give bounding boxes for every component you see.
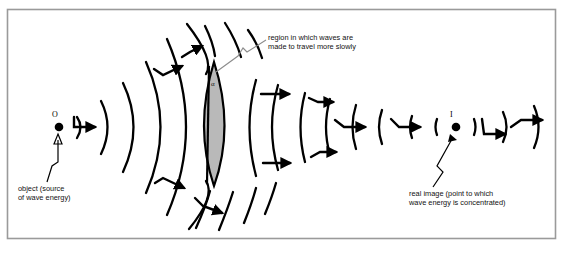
wavefront-post-2 — [503, 112, 507, 142]
fragment-bottom-2 — [219, 192, 233, 230]
wavefront-out-6 — [379, 110, 382, 144]
wavefront-post-3 — [534, 106, 539, 148]
image-point — [452, 123, 461, 132]
region-annotation-label: region in which waves are made to travel… — [268, 33, 356, 51]
image-point-letter: I — [450, 110, 453, 119]
wavefront-out-3 — [301, 93, 306, 162]
leader-image-arrowhead-icon — [448, 134, 457, 142]
arrow-out-far — [391, 119, 420, 127]
leader-image-label — [433, 139, 452, 187]
fragment-bottom-1 — [196, 191, 210, 228]
wavefront-in-3 — [123, 83, 134, 172]
wavefront-fragments-top — [205, 23, 262, 58]
wavefront-in-2 — [101, 101, 108, 154]
real-image-annotation-label: real image (point to which wave energy i… — [409, 189, 506, 207]
fragment-top-2 — [225, 23, 241, 57]
arrow-out-lower2 — [311, 152, 336, 157]
object-point — [55, 123, 64, 132]
wavefront-out-8 — [436, 119, 438, 135]
wavefront-post-1 — [474, 119, 476, 135]
incoming-wavefronts — [77, 24, 209, 229]
arrow-bottom-mid — [195, 198, 222, 213]
arrow-out-mid — [335, 120, 365, 127]
wavefront-in-4 — [146, 62, 161, 193]
object-point-letter: O — [52, 110, 58, 119]
lens-mark-icon: α — [211, 80, 215, 88]
fragment-bottom-4 — [265, 183, 276, 214]
wavefront-out-1 — [250, 80, 257, 176]
wavefront-out-4 — [326, 99, 330, 155]
figure-canvas: α — [0, 0, 563, 261]
arrow-in-upper2 — [182, 46, 202, 57]
object-annotation-label: object (source of wave energy) — [18, 184, 71, 202]
wavefront-out-2 — [272, 85, 278, 170]
fragment-top-1 — [205, 26, 215, 56]
leader-object-label — [47, 140, 58, 182]
fragment-bottom-3 — [244, 188, 256, 223]
arrow-post-1 — [482, 119, 505, 134]
wave-direction-arrows — [74, 46, 542, 213]
